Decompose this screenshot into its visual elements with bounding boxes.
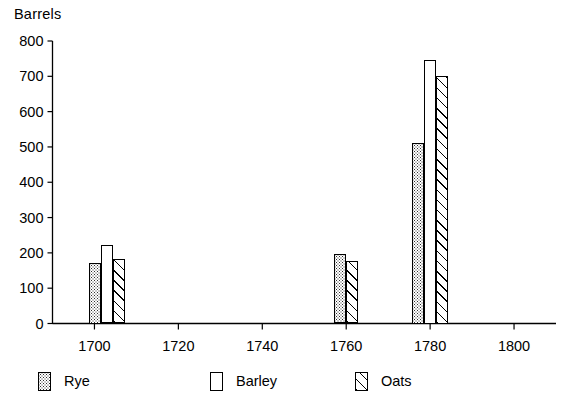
bar-oats-1760 (346, 261, 358, 324)
legend-label-barley: Barley (236, 374, 277, 389)
bar-rye-1760 (334, 254, 346, 324)
bar-rye-1703 (89, 263, 101, 323)
y-tick-label: 600 (0, 105, 44, 120)
chart-legend: RyeBarleyOats (0, 366, 566, 397)
y-tick-marks (48, 41, 53, 324)
x-tick-label: 1720 (143, 339, 213, 354)
y-tick-label: 300 (0, 211, 44, 226)
y-tick-label: 0 (0, 317, 44, 332)
x-tick-label: 1700 (59, 339, 129, 354)
plot-area: 0100200300400500600700800 17001720174017… (0, 0, 566, 397)
legend-swatch-oats (355, 372, 368, 391)
legend-item-oats: Oats (355, 366, 412, 397)
x-tick-label: 1780 (395, 339, 465, 354)
x-tick-label: 1740 (227, 339, 297, 354)
y-tick-label: 100 (0, 281, 44, 296)
x-tick-marks (94, 324, 514, 330)
legend-swatch-barley (210, 372, 223, 391)
y-tick-label: 500 (0, 140, 44, 155)
y-tick-label: 800 (0, 34, 44, 49)
legend-label-oats: Oats (381, 374, 412, 389)
x-tick-label: 1800 (479, 339, 549, 354)
bar-oats-1703 (113, 259, 125, 324)
legend-label-rye: Rye (64, 374, 90, 389)
y-tick-label: 400 (0, 175, 44, 190)
legend-swatch-rye (38, 372, 51, 391)
bar-barley-1780 (424, 60, 436, 323)
bar-rye-1780 (412, 143, 424, 323)
y-tick-label: 700 (0, 69, 44, 84)
legend-item-rye: Rye (38, 366, 90, 397)
y-tick-label: 200 (0, 246, 44, 261)
bar-chart: Barrels 0100200300400500600700800 170017… (0, 0, 566, 397)
bar-barley-1703 (101, 245, 113, 324)
legend-item-barley: Barley (210, 366, 277, 397)
bar-oats-1780 (436, 76, 448, 323)
x-tick-label: 1760 (311, 339, 381, 354)
